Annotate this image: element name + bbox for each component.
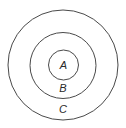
set-a-label: A (59, 59, 67, 71)
set-b-label: B (59, 82, 66, 94)
set-c-label: C (59, 103, 67, 115)
nested-sets-diagram: A B C (0, 0, 126, 128)
